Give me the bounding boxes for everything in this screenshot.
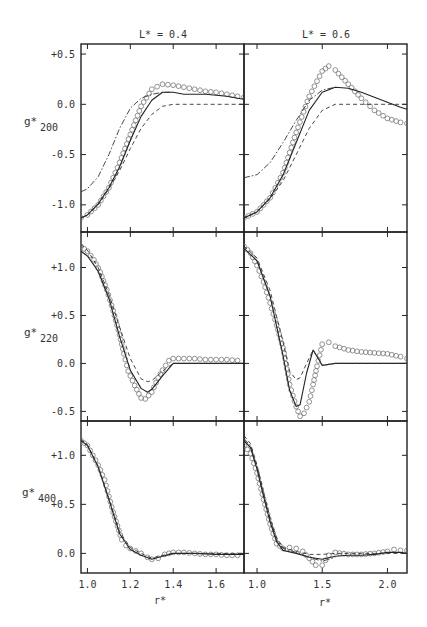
x-axis-label-right: r*	[319, 597, 331, 608]
x-tick-label: 1.2	[121, 579, 139, 590]
panel-frame	[81, 421, 244, 573]
series-solid	[81, 92, 244, 218]
x-tick-label: 1.5	[313, 579, 331, 590]
svg-text:220: 220	[40, 333, 58, 344]
y-tick-label: 0.0	[57, 99, 75, 110]
svg-text:g*: g*	[22, 486, 35, 499]
panel-g400_L04: +1.0+0.50.01.01.21.41.6	[51, 421, 244, 590]
column-title-left: L* = 0.4	[139, 29, 187, 40]
series-solid	[244, 248, 407, 406]
x-tick-label: 1.6	[207, 579, 225, 590]
panel-g400_L06: 1.01.52.0	[242, 421, 410, 590]
series-circles	[79, 82, 247, 221]
x-tick-label: 1.0	[78, 579, 96, 590]
panel-frame	[81, 232, 244, 421]
series-circles	[79, 244, 240, 401]
panel-g200_L04: +0.50.0-0.5-1.0	[51, 44, 246, 232]
y-tick-label: +0.5	[51, 49, 75, 60]
plot-panels: +0.50.0-0.5-1.0+1.0+0.50.0-0.5+1.0+0.50.…	[51, 44, 409, 590]
row-label-g200: g* 200	[24, 115, 58, 133]
series-circles	[242, 244, 410, 419]
x-tick-label: 1.0	[248, 579, 266, 590]
y-tick-label: +0.5	[51, 499, 75, 510]
panel-frame	[244, 421, 407, 573]
series-dashdot	[244, 87, 335, 178]
y-tick-label: -0.5	[51, 406, 75, 417]
figure-canvas: L* = 0.4 L* = 0.6 g* 200 g* 220 g* 400 r…	[0, 0, 427, 627]
series-dashdot	[81, 92, 173, 192]
series-circles	[242, 64, 410, 221]
series-dashed	[244, 246, 407, 379]
series-dashed	[244, 436, 407, 555]
row-label-g220: g* 220	[24, 326, 58, 344]
y-tick-label: -0.5	[51, 149, 75, 160]
panel-g220_L04: +1.0+0.50.0-0.5	[51, 232, 244, 421]
x-tick-label: 2.0	[378, 579, 396, 590]
series-dashed	[244, 104, 407, 218]
series-solid	[81, 251, 244, 392]
y-tick-label: 0.0	[57, 358, 75, 369]
panel-frame	[244, 44, 407, 232]
panel-frame	[81, 44, 244, 232]
column-title-right: L* = 0.6	[302, 29, 350, 40]
y-tick-label: +1.0	[51, 450, 75, 461]
y-tick-label: +0.5	[51, 310, 75, 321]
y-tick-label: 0.0	[57, 548, 75, 559]
series-dashed	[81, 440, 244, 559]
x-tick-label: 1.4	[164, 579, 182, 590]
x-axis-label-left: r*	[154, 595, 166, 606]
svg-text:g*: g*	[24, 326, 37, 339]
y-tick-label: -1.0	[51, 199, 75, 210]
panel-g220_L06	[242, 232, 410, 421]
series-solid	[244, 441, 407, 560]
svg-text:g*: g*	[24, 115, 37, 128]
panel-frame	[244, 232, 407, 421]
series-circles	[79, 438, 240, 561]
series-solid	[244, 87, 407, 218]
svg-text:200: 200	[40, 122, 58, 133]
y-tick-label: +1.0	[51, 262, 75, 273]
panel-g200_L06	[242, 44, 410, 232]
series-solid	[81, 441, 244, 560]
series-dashdot	[244, 439, 335, 562]
